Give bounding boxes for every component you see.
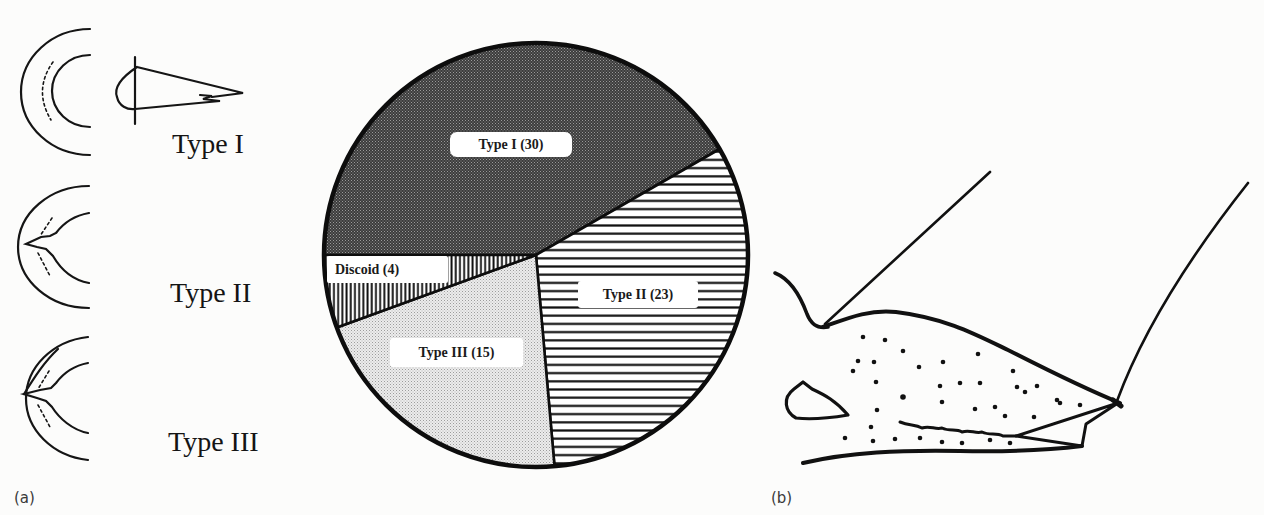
type-iii-label: Type III xyxy=(168,428,259,456)
right-curve xyxy=(1117,183,1248,401)
lower-outline xyxy=(803,446,1082,463)
type-ii-diagram xyxy=(18,186,89,308)
left-long-line xyxy=(825,172,990,324)
slice-label-type-iii: Type III (15) xyxy=(390,338,523,367)
panel-a-label: (a) xyxy=(14,490,35,507)
upper-bulge-outline xyxy=(823,311,1120,403)
slice-label-type-ii: Type II (23) xyxy=(578,281,698,308)
panel-b-label: (b) xyxy=(771,490,792,507)
type-iii-dashed-lower xyxy=(38,405,50,427)
type-i-outer-arc xyxy=(21,29,90,155)
slice-label-type-i: Type I (30) xyxy=(450,132,572,157)
type-iii-diagram xyxy=(24,337,88,460)
type-i-inner-arc xyxy=(52,55,90,127)
type-iii-inner-jagged xyxy=(24,363,88,433)
type-i-cross-section xyxy=(116,57,243,124)
type-iii-dashed-upper xyxy=(38,371,49,389)
left-hook xyxy=(775,273,828,327)
type-ii-outer-arc xyxy=(18,186,89,308)
type-ii-inner-jagged xyxy=(26,213,89,283)
stipple-dots xyxy=(843,335,1083,446)
jagged-inner-line xyxy=(900,422,1016,436)
type-i-label: Type I xyxy=(172,130,244,158)
type-ii-dashed-upper xyxy=(40,218,52,236)
type-ii-dashed-lower xyxy=(38,253,50,276)
tip-wedge xyxy=(1016,403,1118,446)
small-blob xyxy=(786,382,848,419)
slice-label-discoid: Discoid (4) xyxy=(327,256,448,283)
type-ii-label: Type II xyxy=(170,279,251,307)
panel-b-drawing xyxy=(775,172,1248,463)
